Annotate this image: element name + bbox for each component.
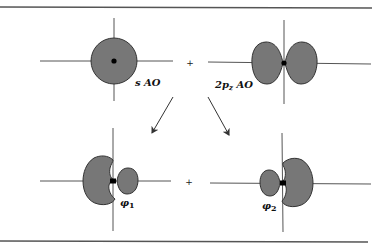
svg-text:+: + — [185, 177, 193, 187]
hybrid-1-label: φ — [120, 197, 129, 208]
svg-text:φ2: φ2 — [262, 200, 277, 213]
svg-text:+: + — [186, 58, 194, 68]
svg-text:φ1: φ1 — [120, 197, 135, 210]
svg-text:s AO: s AO — [135, 77, 161, 88]
arrow-to-hybrid-1 — [152, 97, 173, 133]
p-orbital: 2pz AO — [208, 20, 371, 104]
bottom-rule — [0, 241, 368, 242]
orbital-hybridization-diagram: s AO + 2pz AO φ1 + — [0, 0, 381, 248]
p-orbital-label-prefix: 2p — [214, 79, 229, 90]
svg-text:2pz AO: 2pz AO — [214, 79, 253, 92]
hybrid-2-large-lobe — [282, 158, 313, 206]
p-orbital-label-suffix: AO — [233, 79, 253, 90]
hybrid-1-small-lobe — [117, 168, 138, 194]
p-orbital-nucleus — [281, 60, 286, 65]
top-plus-operator: + — [186, 58, 194, 68]
hybrid-orbital-2: φ2 — [210, 133, 371, 232]
top-rule — [0, 7, 372, 8]
arrow-to-hybrid-2 — [208, 97, 229, 135]
hybrid-orbital-1: φ1 — [40, 128, 171, 231]
hybrid-2-label-sub: 2 — [271, 203, 277, 213]
p-orbital-right-lobe — [285, 42, 317, 84]
s-orbital: s AO — [40, 18, 173, 101]
p-orbital-left-lobe — [252, 42, 283, 84]
s-orbital-nucleus — [111, 58, 116, 63]
hybrid-2-label: φ — [262, 200, 271, 211]
bottom-plus-operator: + — [185, 177, 193, 187]
hybrid-1-label-sub: 1 — [129, 200, 135, 210]
hybrid-2-nucleus — [280, 181, 286, 186]
hybrid-1-nucleus — [110, 179, 116, 184]
s-orbital-label: s AO — [135, 77, 161, 88]
hybrid-2-small-lobe — [260, 170, 280, 196]
